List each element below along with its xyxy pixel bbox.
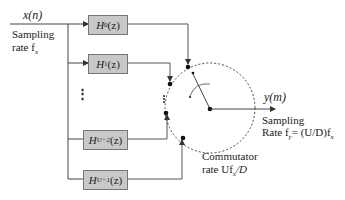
output-rate-expr-sub: x: [331, 133, 334, 141]
filter-arg: (z): [108, 19, 120, 31]
filter-arg: (z): [110, 174, 122, 186]
filter-box-h0: H0(z): [88, 15, 128, 35]
commutator-rate-tail: /D: [236, 163, 247, 175]
filter-name: H: [89, 174, 97, 186]
input-rate-text: rate f: [12, 41, 35, 53]
output-rate-label-1: Sampling: [262, 114, 304, 126]
input-rate-sub: x: [35, 48, 38, 56]
filter-sub: U−2: [97, 136, 110, 144]
commutator-label-1: Commutator: [202, 150, 258, 162]
commutator-rate-text: rate Uf: [202, 163, 233, 175]
filter-name: H: [89, 134, 97, 146]
filter-name: H: [96, 19, 104, 31]
commutator-label-2: rate Ufx/D: [202, 163, 247, 180]
filter-arg: (z): [110, 134, 122, 146]
filter-sub: U−1: [97, 176, 110, 184]
output-rate-expr: = (U/D)f: [292, 126, 331, 138]
input-rate-label-2: rate fx: [12, 41, 38, 58]
input-rate-label-1: Sampling: [12, 28, 54, 40]
output-signal-label: y(m): [264, 91, 286, 103]
filter-arg: (z): [108, 58, 120, 70]
filter-box-hu2: HU−2(z): [83, 130, 128, 150]
input-signal-label: x(n): [23, 9, 42, 21]
filter-name: H: [96, 58, 104, 70]
filter-box-h1: H1(z): [88, 54, 128, 74]
output-rate-label-2: Rate fy= (U/D)fx: [262, 126, 334, 143]
output-rate-text: Rate f: [262, 126, 289, 138]
ellipsis: ⋮: [76, 88, 89, 100]
filter-box-hu1: HU−1(z): [83, 170, 128, 190]
